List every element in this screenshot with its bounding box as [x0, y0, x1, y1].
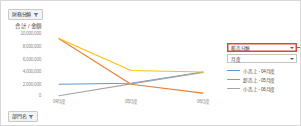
chart-filter-panel: 販売分類 月度 小売上 - 04月度 卸売上 - 05月度 小売上 - 06月度 — [227, 43, 297, 93]
filter-dropdown-sales-category-label: 販売分類 — [231, 45, 250, 51]
filter-dropdown-month[interactable]: 月度 — [227, 54, 297, 63]
legend-label: 卸売上 - 05月度 — [243, 77, 275, 83]
slicer-button-financial[interactable]: 財務分類 — [8, 9, 43, 20]
chevron-down-icon[interactable] — [290, 47, 294, 49]
y-axis: 10,000,000 8,000,000 6,000,000 4,000,000… — [7, 31, 41, 97]
y-tick-label: 4,000,000 — [23, 69, 41, 74]
chart-series-svg — [43, 31, 219, 97]
slicer-label-financial: 財務分類 — [12, 12, 31, 17]
legend-swatch — [227, 70, 240, 72]
legend-label: 小売上 - 04月度 — [243, 68, 275, 74]
filter-dropdown-month-label: 月度 — [231, 56, 241, 62]
chart-title: 合計 / 金額 — [15, 22, 42, 30]
legend-label: 小売上 - 06月度 — [243, 86, 275, 92]
pivot-chart-panel: 財務分類 合計 / 金額 10,000,000 8,000,000 6,000,… — [0, 0, 301, 126]
highlight-callout-line — [297, 47, 301, 48]
filter-funnel-icon[interactable] — [28, 114, 34, 120]
chevron-down-icon[interactable] — [290, 58, 294, 60]
y-tick-label: 8,000,000 — [23, 43, 41, 48]
legend-item[interactable]: 卸売上 - 05月度 — [227, 75, 297, 84]
x-tick-label: 05月度 — [125, 98, 137, 104]
filter-dropdown-sales-category[interactable]: 販売分類 — [227, 43, 297, 52]
x-axis: 04月度 05月度 06月度 — [43, 98, 219, 110]
y-tick-label: 10,000,000 — [20, 31, 41, 36]
x-tick-label: 04月度 — [53, 98, 65, 104]
y-tick-label: 2,000,000 — [23, 82, 41, 87]
slicer-button-department[interactable]: 部門名 — [8, 111, 38, 122]
legend-swatch — [227, 88, 240, 90]
chart-plot-area — [43, 31, 219, 97]
chart-legend: 小売上 - 04月度 卸売上 - 05月度 小売上 - 06月度 — [227, 66, 297, 93]
y-tick-label: 6,000,000 — [23, 56, 41, 61]
y-tick-label: 0 — [39, 93, 41, 98]
chart-plot-wrapper: 10,000,000 8,000,000 6,000,000 4,000,000… — [7, 31, 219, 111]
slicer-label-department: 部門名 — [12, 114, 26, 119]
legend-item[interactable]: 小売上 - 04月度 — [227, 66, 297, 75]
legend-swatch — [227, 79, 240, 81]
filter-funnel-icon[interactable] — [33, 12, 39, 18]
x-tick-label: 06月度 — [197, 98, 209, 104]
legend-item[interactable]: 小売上 - 06月度 — [227, 84, 297, 93]
